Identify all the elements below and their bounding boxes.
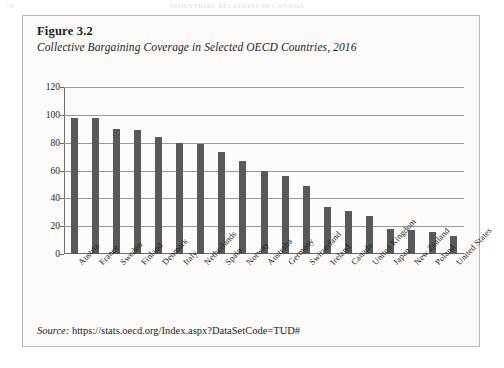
figure-title: Collective Bargaining Coverage in Select…	[37, 41, 457, 53]
source-url: https://stats.oecd.org/Index.aspx?DataSe…	[72, 325, 300, 336]
y-axis-tick-label: 40	[20, 193, 60, 203]
bar	[239, 161, 246, 254]
y-axis-tick-label: 60	[20, 166, 60, 176]
page-number: 78	[6, 2, 14, 10]
y-axis-tick-label: 100	[20, 110, 60, 120]
y-axis-tick-label: 20	[20, 221, 60, 231]
figure-number: Figure 3.2	[37, 24, 457, 39]
source-label: Source:	[37, 325, 69, 336]
y-axis-tick-label: 0	[20, 249, 60, 259]
bar	[197, 144, 204, 254]
bar	[134, 130, 141, 254]
bar	[92, 118, 99, 254]
y-axis-tick-label: 120	[20, 82, 60, 92]
bar	[113, 129, 120, 254]
figure-container: Figure 3.2 Collective Bargaining Coverag…	[22, 15, 480, 347]
y-axis-tick-label: 80	[20, 138, 60, 148]
figure-source-line: Source: https://stats.oecd.org/Index.asp…	[37, 325, 300, 336]
page-running-header: 78 INDUSTRIAL RELATIONS IN CANADA	[0, 0, 504, 14]
running-title: INDUSTRIAL RELATIONS IN CANADA	[170, 2, 304, 10]
x-axis-labels-group: AustriaFranceSwedenFinlandDenmarkItalyNe…	[64, 256, 504, 331]
y-axis-tick-mark	[60, 254, 64, 255]
bar	[71, 118, 78, 254]
bar	[155, 137, 162, 254]
figure-caption: Figure 3.2 Collective Bargaining Coverag…	[37, 24, 457, 53]
